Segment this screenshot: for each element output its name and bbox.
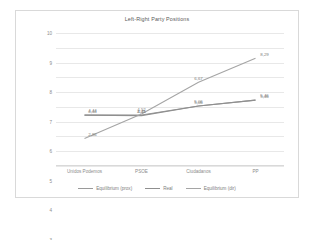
y-axis-tick-label: 7 — [49, 119, 52, 124]
chart-legend: Equilibrium (prox)RealEquilibrium (dir) — [16, 186, 298, 191]
legend-line-swatch — [145, 188, 160, 189]
gridline: 1 — [56, 166, 284, 167]
data-point-label: 8,29 — [260, 51, 269, 56]
x-axis-tick-label: Unidos Podemos — [56, 169, 113, 181]
y-axis-tick-label: 6 — [49, 149, 52, 154]
data-point-label: 2,86 — [88, 132, 97, 137]
legend-label: Equilibrium (prox) — [96, 186, 132, 191]
x-axis-tick-label: PP — [227, 169, 284, 181]
data-point-label: 5,46 — [260, 93, 269, 98]
data-point-label: 5,06 — [194, 99, 203, 104]
x-axis-labels: Unidos PodemosPSOECiudadanosPP — [56, 169, 284, 181]
chart-container: Left-Right Party Positions 10987654321 4… — [15, 10, 299, 198]
x-axis-tick-label: PSOE — [113, 169, 170, 181]
legend-entry[interactable]: Real — [145, 186, 172, 191]
chart-title: Left-Right Party Positions — [16, 16, 298, 22]
legend-label: Real — [163, 186, 172, 191]
x-axis-tick-label: Ciudadanos — [170, 169, 227, 181]
series-line — [85, 58, 256, 138]
series-lines-group — [56, 33, 284, 166]
data-point-label: 4,52 — [137, 107, 146, 112]
y-axis-tick-label: 4 — [49, 208, 52, 209]
data-point-label: 4,44 — [88, 108, 97, 113]
y-axis-tick-label: 5 — [49, 178, 52, 183]
legend-line-swatch — [186, 188, 201, 189]
legend-entry[interactable]: Equilibrium (prox) — [78, 186, 132, 191]
y-axis-tick-label: 10 — [47, 31, 52, 36]
y-axis-tick-label: 9 — [49, 60, 52, 65]
series-line — [85, 100, 256, 116]
legend-label: Equilibrium (dir) — [204, 186, 236, 191]
y-axis-tick-label: 8 — [49, 90, 52, 95]
legend-line-swatch — [78, 188, 93, 189]
data-point-label: 6,67 — [194, 75, 203, 80]
legend-entry[interactable]: Equilibrium (dir) — [186, 186, 236, 191]
plot-area: 10987654321 4,444,455,065,464,444,415,06… — [56, 33, 284, 166]
